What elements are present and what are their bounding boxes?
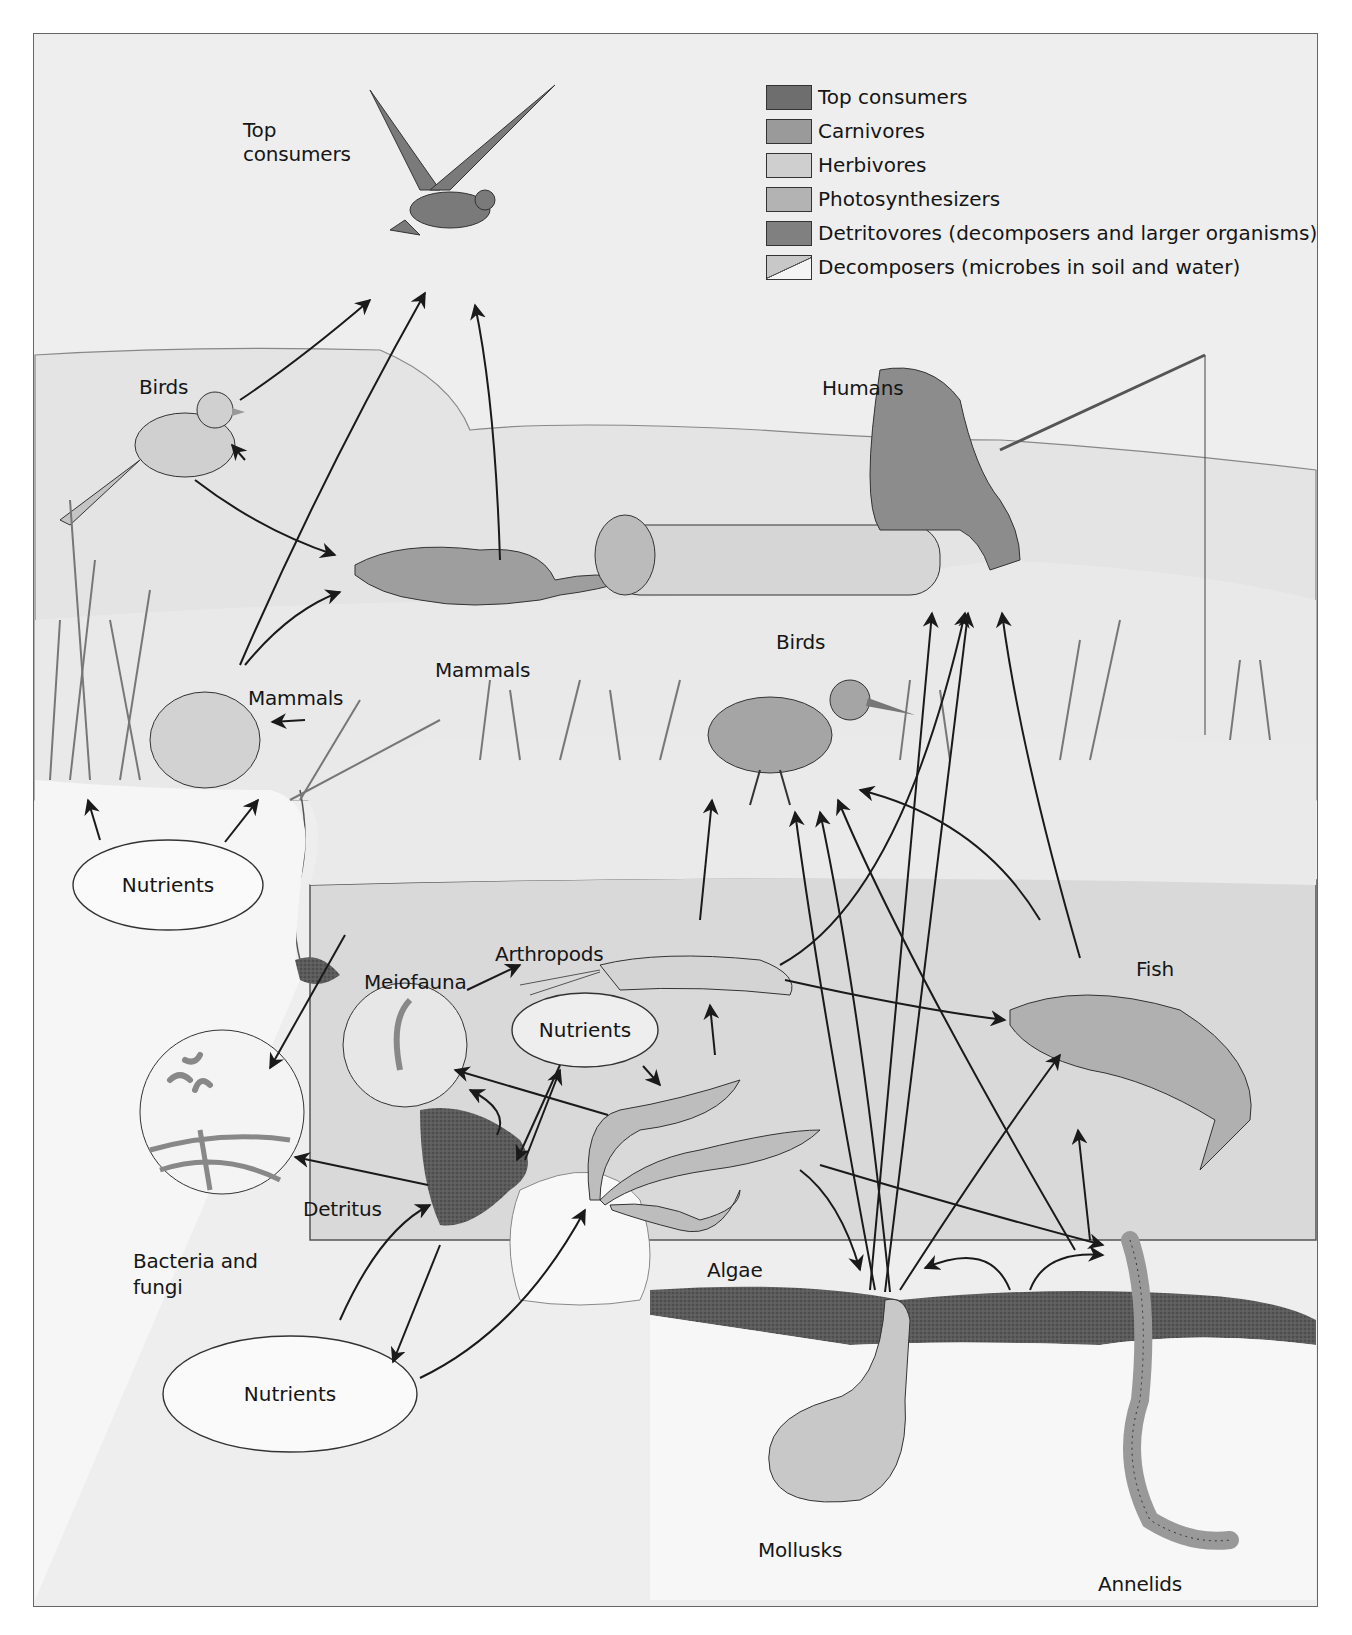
label-top-consumers-line1: Top (243, 118, 276, 142)
label-nutrients-water: Nutrients (512, 993, 658, 1067)
label-top-consumers: Topconsumers (243, 118, 351, 166)
label-bacteria-line1: Bacteria and (133, 1249, 258, 1273)
legend-swatch-top-consumers (766, 85, 812, 110)
legend-swatch-carnivores (766, 119, 812, 144)
label-bacteria-line2: fungi (133, 1275, 183, 1299)
label-birds-land: Birds (139, 375, 188, 399)
label-detritus: Detritus (303, 1197, 382, 1221)
label-arthropods: Arthropods (495, 942, 604, 966)
label-birds-wading: Birds (776, 630, 825, 654)
legend-swatch-herbivores (766, 153, 812, 178)
legend-item-herbivores: Herbivores (766, 148, 1317, 182)
label-mammals-weasel: Mammals (435, 658, 530, 682)
label-algae: Algae (707, 1258, 763, 1282)
label-meiofauna: Meiofauna (364, 970, 466, 994)
legend-item-decomposers: Decomposers (microbes in soil and water) (766, 250, 1317, 284)
legend-item-top-consumers: Top consumers (766, 80, 1317, 114)
label-nutrients-land: Nutrients (73, 840, 263, 930)
legend-item-detritovores: Detritovores (decomposers and larger org… (766, 216, 1317, 250)
white-rock (510, 1172, 650, 1305)
legend-label: Carnivores (818, 119, 925, 143)
hawk-icon (370, 85, 555, 235)
mouse-icon (150, 692, 260, 788)
label-humans: Humans (822, 376, 903, 400)
label-fish: Fish (1136, 957, 1174, 981)
label-nutrients-sediment: Nutrients (163, 1336, 417, 1452)
legend-item-photosynthesizers: Photosynthesizers (766, 182, 1317, 216)
bacteria-fungi-magnifier (140, 1030, 304, 1194)
label-mammals-mouse: Mammals (248, 686, 343, 710)
legend-swatch-decomposers (766, 255, 812, 280)
legend-swatch-photosynthesizers (766, 187, 812, 212)
legend-label: Herbivores (818, 153, 926, 177)
legend-swatch-detritovores (766, 221, 812, 246)
legend-label: Photosynthesizers (818, 187, 1000, 211)
label-top-consumers-line2: consumers (243, 142, 351, 166)
legend-item-carnivores: Carnivores (766, 114, 1317, 148)
label-annelids: Annelids (1098, 1572, 1182, 1596)
label-bacteria-fungi: Bacteria andfungi (133, 1248, 258, 1300)
legend-label: Decomposers (microbes in soil and water) (818, 255, 1240, 279)
legend-label: Detritovores (decomposers and larger org… (818, 221, 1317, 245)
legend: Top consumers Carnivores Herbivores Phot… (766, 80, 1317, 284)
label-mollusks: Mollusks (758, 1538, 842, 1562)
legend-label: Top consumers (818, 85, 968, 109)
